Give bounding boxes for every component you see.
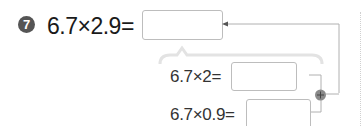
- page-edge-divider: [360, 12, 361, 126]
- arrow-left-icon: [222, 22, 228, 27]
- step1-connector: [309, 75, 321, 90]
- plus-circle-icon: [315, 90, 326, 101]
- step1-expression: 6.7×2=: [170, 67, 221, 87]
- step2-connector: [310, 100, 321, 112]
- step2-answer-box[interactable]: [246, 99, 311, 126]
- step2-expression: 6.7×0.9=: [170, 105, 235, 125]
- step1-answer-box[interactable]: [231, 62, 297, 91]
